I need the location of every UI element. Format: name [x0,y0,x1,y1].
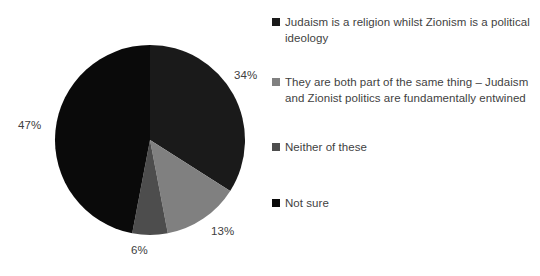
legend-item-neither-of-these[interactable]: Neither of these [272,139,534,155]
legend-item-label: Not sure [285,195,329,211]
pie-data-label-1: 13% [211,225,234,237]
square-swatch-icon [272,18,280,26]
legend-item-not-sure[interactable]: Not sure [272,195,534,211]
pie-slice-3[interactable] [55,45,150,233]
legend-item-label: They are both part of the same thing – J… [285,74,534,106]
pie-data-label-2: 6% [131,244,148,256]
legend-item-label: Neither of these [285,139,367,155]
legend-item-label: Judaism is a religion whilst Zionism is … [285,14,534,46]
pie-data-label-3: 47% [18,119,41,131]
pie-slice-group [55,45,245,235]
pie-chart-figure: 34% 13% 6% 47% Judaism is a religion whi… [0,0,540,276]
square-swatch-icon [272,199,280,207]
square-swatch-icon [272,143,280,151]
pie-data-label-0: 34% [234,69,257,81]
square-swatch-icon [272,78,280,86]
pie-plot-area: 34% 13% 6% 47% [0,0,270,276]
legend-item-both-part-of-same-thing[interactable]: They are both part of the same thing – J… [272,74,534,106]
legend-item-judaism-religion-zionism-ideology[interactable]: Judaism is a religion whilst Zionism is … [272,14,534,46]
